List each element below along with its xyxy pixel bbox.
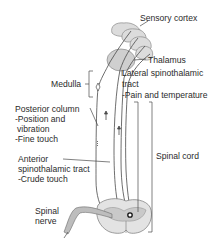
label-sensory-cortex: Sensory cortex [140, 13, 197, 23]
label-anterior-tract-line3: -Crude touch [18, 174, 68, 184]
label-posterior-column-line4: -Fine touch [15, 134, 58, 144]
label-lateral-tract-line3: -Pain and temperature [122, 90, 208, 100]
label-lateral-tract-line2: tract [122, 79, 139, 89]
label-lateral-tract-line1: Lateral spinothalamic [122, 68, 203, 78]
label-spinal-cord: Spinal cord [156, 151, 199, 161]
ascending-arrows [98, 111, 121, 146]
label-thalamus: Thalamus [148, 55, 186, 65]
label-posterior-column-line3: vibration [17, 124, 49, 134]
label-anterior-tract-line2: spinothalamic tract [18, 164, 90, 174]
label-posterior-column-line1: Posterior column [15, 104, 79, 114]
label-posterior-column-line2: -Position and [15, 114, 65, 124]
label-medulla: Medulla [51, 79, 81, 89]
label-spinal-nerve-line2: nerve [35, 216, 57, 226]
label-anterior-tract-line1: Anterior [18, 154, 48, 164]
label-spinal-nerve-line1: Spinal [35, 206, 59, 216]
